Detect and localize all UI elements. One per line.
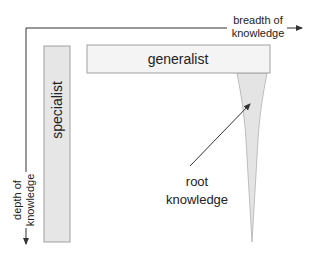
breadth-axis: breadth of knowledge xyxy=(26,14,302,39)
generalist-box: generalist xyxy=(87,45,270,73)
specialist-box: specialist xyxy=(44,46,70,242)
depth-axis-label-line1: depth of xyxy=(11,179,23,220)
depth-axis: depth of knowledge xyxy=(11,28,36,244)
breadth-axis-label-line1: breadth of xyxy=(233,14,283,26)
knowledge-diagram: breadth of knowledge depth of knowledge … xyxy=(0,0,321,258)
breadth-axis-label-line2: knowledge xyxy=(232,27,285,39)
root-knowledge-funnel xyxy=(237,73,267,242)
root-knowledge-pointer-arrow-icon xyxy=(190,104,250,166)
root-knowledge-label-line1: root xyxy=(186,174,209,189)
depth-axis-label-line2: knowledge xyxy=(24,174,36,227)
root-knowledge-label-line2: knowledge xyxy=(166,192,228,207)
specialist-label: specialist xyxy=(49,81,65,139)
generalist-label: generalist xyxy=(148,51,209,67)
